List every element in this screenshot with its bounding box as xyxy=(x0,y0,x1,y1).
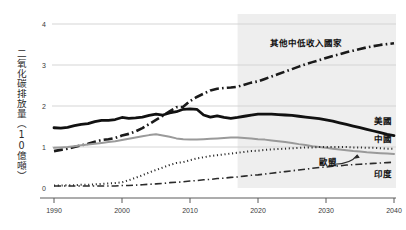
x-tick-label-2020: 2020 xyxy=(250,207,266,214)
y-tick-label-2: 2 xyxy=(42,103,46,110)
co2-emissions-line-chart: 199020002010202020302040 01234 其他中低收入國家美… xyxy=(0,0,406,230)
x-axis-tick-labels: 199020002010202020302040 xyxy=(46,207,402,214)
y-tick-label-3: 3 xyxy=(42,62,46,69)
series-label-1: 美國 xyxy=(374,116,392,126)
series-label-0: 其他中低收入國家 xyxy=(270,38,342,48)
x-tick-label-2040: 2040 xyxy=(386,207,402,214)
x-tick-label-2010: 2010 xyxy=(182,207,198,214)
x-tick-label-2000: 2000 xyxy=(114,207,130,214)
series-label-2: 中國 xyxy=(374,134,392,144)
series-label-4: 印度 xyxy=(374,169,392,179)
x-tick-label-1990: 1990 xyxy=(46,207,62,214)
y-tick-label-4: 4 xyxy=(42,21,46,28)
y-axis-tick-labels: 01234 xyxy=(42,21,46,192)
y-tick-label-0: 0 xyxy=(42,185,46,192)
x-tick-label-2030: 2030 xyxy=(318,207,334,214)
x-axis-ticks xyxy=(54,198,394,203)
y-tick-label-1: 1 xyxy=(42,144,46,151)
series-label-3: 歐盟 xyxy=(319,157,337,167)
chart-canvas: 199020002010202020302040 01234 其他中低收入國家美… xyxy=(0,0,406,230)
